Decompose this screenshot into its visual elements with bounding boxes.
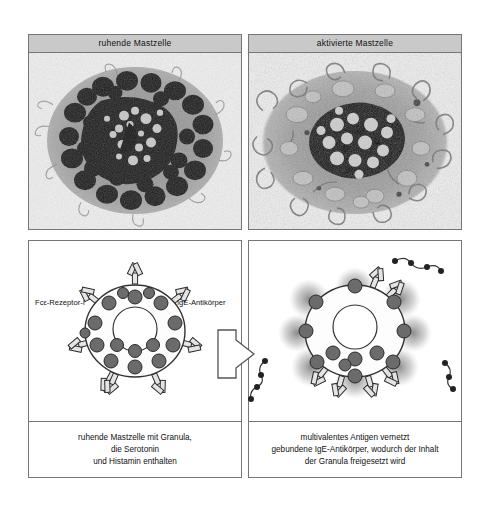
figure-mast-cell-activation: ruhende Mastzelle: [28, 34, 462, 478]
micrograph-activated-render: [249, 53, 461, 229]
diagram-activated-body: [249, 241, 461, 421]
caption-resting: ruhende Mastzelle mit Granula, die Serot…: [29, 421, 241, 477]
nucleus-activated-schematic: [333, 305, 377, 349]
micrograph-image-resting: [29, 53, 241, 229]
micrograph-panel-resting: ruhende Mastzelle: [28, 34, 242, 230]
label-ige-antibody: IgE-Antikörper: [177, 298, 226, 307]
caption-activated-line-1: multivalentes Antigen vernetzt: [271, 432, 438, 444]
micrograph-resting-render: [29, 53, 241, 229]
diagram-resting-body: Fcε-Rezeptor-I IgE-Antikörper: [29, 241, 241, 421]
caption-resting-line-2: die Serotonin: [78, 444, 192, 456]
micrograph-header-activated: aktivierte Mastzelle: [249, 35, 461, 53]
schematic-activated-mast-cell: [249, 241, 461, 421]
caption-activated: multivalentes Antigen vernetzt gebundene…: [249, 421, 461, 477]
caption-activated-line-2: gebundene IgE-Antikörper, wodurch der In…: [271, 444, 438, 456]
caption-activated-line-3: der Granula freigesetzt wird: [271, 456, 438, 468]
label-fc-receptor: Fcε-Rezeptor-I: [35, 298, 85, 307]
column-resting: ruhende Mastzelle: [28, 34, 242, 478]
diagram-panel-activated: multivalentes Antigen vernetzt gebundene…: [248, 240, 462, 478]
micrograph-image-activated: [249, 53, 461, 229]
column-activated: aktivierte Mastzelle: [248, 34, 462, 478]
micrograph-panel-activated: aktivierte Mastzelle: [248, 34, 462, 230]
diagram-panel-resting: Fcε-Rezeptor-I IgE-Antikörper ruhende Ma…: [28, 240, 242, 478]
micrograph-header-resting: ruhende Mastzelle: [29, 35, 241, 53]
caption-resting-line-3: und Histamin enthalten: [78, 456, 192, 468]
caption-resting-line-1: ruhende Mastzelle mit Granula,: [78, 432, 192, 444]
schematic-resting-mast-cell: Fcε-Rezeptor-I IgE-Antikörper: [29, 241, 241, 421]
